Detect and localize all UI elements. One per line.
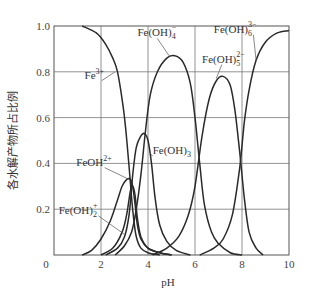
y-axis-label: 各水解产物所占比例 [6,91,20,190]
x-tick-label: 10 [284,258,296,270]
label-leader-line [253,35,256,60]
label-leader-line [157,38,169,55]
curve-label: Fe(OH)3 [153,144,191,159]
plot-frame [54,26,289,255]
y-tick-label: 0.8 [36,66,50,78]
y-tick-label: 0.6 [36,112,50,124]
curve-labels: Fe3+FeOH2+Fe(OH)2+Fe(OH)3Fe(OH)4−Fe(OH)5… [59,20,257,235]
x-tick-label: 0 [43,258,49,270]
x-tick-label: 4 [145,258,151,270]
label-leader-line [105,168,129,180]
x-axis-label: pH [161,276,175,288]
curve-label: FeOH2+ [76,154,112,168]
grid-lines [54,26,289,255]
y-tick-label: 0.2 [36,203,50,215]
x-tick-label: 8 [239,258,245,270]
curve-label: Fe(OH)2+ [59,201,98,219]
curve-label: Fe(OH)52− [202,50,245,68]
y-tick-label: 0.4 [36,157,50,169]
curve-label: Fe(OH)63− [214,20,257,38]
y-tick-label: 1.0 [36,20,50,32]
speciation-chart: Fe3+FeOH2+Fe(OH)2+Fe(OH)3Fe(OH)4−Fe(OH)5… [0,0,310,294]
curves [82,26,289,255]
x-tick-label: 2 [98,258,104,270]
curve-label: Fe3+ [85,67,105,81]
x-tick-label: 6 [192,258,198,270]
